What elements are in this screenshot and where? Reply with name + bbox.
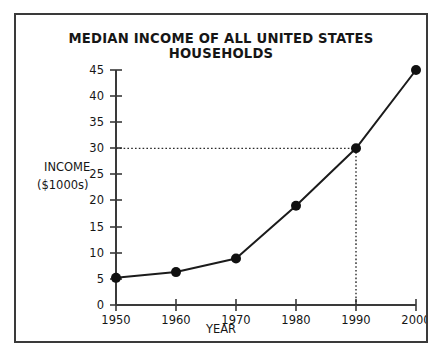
- y-axis-title-line1: INCOME: [44, 160, 90, 174]
- chart-plot-area: INCOME ($1000s) YEAR 45 40 35 30 25 2: [16, 15, 426, 341]
- y-tick-label: 15: [89, 220, 104, 234]
- guide-lines: [116, 148, 356, 305]
- x-tick-label: 1980: [281, 313, 310, 327]
- chart-figure: MEDIAN INCOME OF ALL UNITED STATES HOUSE…: [14, 13, 428, 343]
- y-tick-label: 10: [89, 246, 104, 260]
- y-tick-label: 30: [89, 141, 104, 155]
- data-point: [171, 267, 181, 277]
- y-tick-label: 35: [89, 115, 104, 129]
- data-point: [231, 254, 241, 264]
- y-tick-label: 20: [89, 193, 104, 207]
- y-tick-label: 25: [89, 167, 104, 181]
- x-tick-label: 1990: [341, 313, 370, 327]
- y-tick-label: 45: [89, 63, 104, 77]
- y-tick-label: 0: [97, 298, 104, 312]
- data-point: [411, 65, 421, 75]
- x-axis-tick-labels: 1950 1960 1970 1980 1990 2000: [101, 313, 426, 327]
- data-point: [351, 143, 361, 153]
- x-tick-label: 2000: [401, 313, 426, 327]
- data-series-line: [116, 70, 416, 278]
- y-axis-tick-labels: 45 40 35 30 25 20 15 10 5 0: [89, 63, 104, 312]
- data-point: [111, 273, 121, 283]
- x-tick-label: 1970: [221, 313, 250, 327]
- data-point: [291, 201, 301, 211]
- y-axis-title-line2: ($1000s): [37, 178, 89, 192]
- x-tick-label: 1960: [161, 313, 190, 327]
- data-series-markers: [111, 65, 421, 283]
- x-tick-label: 1950: [101, 313, 130, 327]
- y-tick-label: 5: [97, 272, 104, 286]
- y-tick-label: 40: [89, 89, 104, 103]
